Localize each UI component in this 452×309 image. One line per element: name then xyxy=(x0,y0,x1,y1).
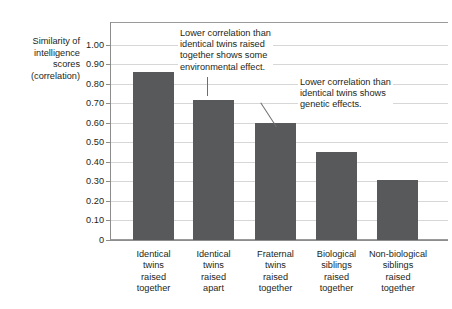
annotation-line: Lower correlation than xyxy=(180,28,271,39)
x-label-line: together xyxy=(122,283,185,294)
x-label-line: raised xyxy=(305,272,368,283)
x-label-line: raised xyxy=(361,272,435,283)
x-label-line: raised xyxy=(244,272,307,283)
ytick-label-0.70: 0.70 xyxy=(64,99,104,108)
x-label-line: siblings xyxy=(305,260,368,271)
annotation-line: Lower correlation than xyxy=(300,77,391,88)
x-axis-line xyxy=(110,240,448,241)
ytick-label-0.50: 0.50 xyxy=(64,138,104,147)
ytick-label-0.30: 0.30 xyxy=(64,177,104,186)
ytick-label-0.80: 0.80 xyxy=(64,80,104,89)
annotation-genetic-effect: Lower correlation than identical twins s… xyxy=(298,76,393,112)
ytick-label-0.60: 0.60 xyxy=(64,119,104,128)
gridline-0.90 xyxy=(110,64,448,65)
annotation-line: environmental effect. xyxy=(180,62,271,73)
bar-biological-siblings-raised-together xyxy=(316,152,357,240)
y-axis-tick-labels: 1.00 0.90 0.80 0.70 0.60 0.50 0.40 0.30 … xyxy=(60,0,104,309)
x-label-fraternal-twins-raised-together: Fraternal twins raised together xyxy=(244,249,307,295)
x-label-line: apart xyxy=(183,283,244,294)
annotation-line: identical twins raised xyxy=(180,39,271,50)
x-label-line: siblings xyxy=(361,260,435,271)
x-label-line: twins xyxy=(122,260,185,271)
annotation-line: genetic effects. xyxy=(300,99,391,110)
x-label-line: raised xyxy=(122,272,185,283)
ytick-label-1.00: 1.00 xyxy=(64,41,104,50)
x-label-line: Biological xyxy=(305,249,368,260)
y-axis-line xyxy=(110,22,111,241)
intelligence-similarity-bar-chart: Similarity of intelligence scores (corre… xyxy=(0,0,452,309)
x-label-line: Fraternal xyxy=(244,249,307,260)
x-label-identical-twins-raised-apart: Identical twins raised apart xyxy=(183,249,244,295)
ytick-label-0.40: 0.40 xyxy=(64,158,104,167)
gridline-1.00 xyxy=(110,45,448,46)
x-label-line: Identical xyxy=(122,249,185,260)
ytick-label-0: 0 xyxy=(64,236,104,245)
ytick-label-0.20: 0.20 xyxy=(64,197,104,206)
x-label-identical-twins-raised-together: Identical twins raised together xyxy=(122,249,185,295)
x-label-non-biological-siblings-raised-together: Non-biological siblings raised together xyxy=(361,249,435,295)
annotation-1-leader-line xyxy=(207,77,208,96)
bar-fraternal-twins-raised-together xyxy=(255,123,296,240)
x-label-line: raised xyxy=(183,272,244,283)
annotation-line: together shows some xyxy=(180,50,271,61)
ytick-label-0.10: 0.10 xyxy=(64,216,104,225)
x-label-line: Identical xyxy=(183,249,244,260)
x-label-biological-siblings-raised-together: Biological siblings raised together xyxy=(305,249,368,295)
ytick-label-0.90: 0.90 xyxy=(64,60,104,69)
annotation-line: identical twins shows xyxy=(300,88,391,99)
bar-identical-twins-raised-together xyxy=(133,72,174,240)
x-label-line: together xyxy=(244,283,307,294)
x-label-line: twins xyxy=(244,260,307,271)
annotation-environmental-effect: Lower correlation than identical twins r… xyxy=(178,27,273,74)
x-label-line: together xyxy=(305,283,368,294)
bar-non-biological-siblings-raised-together xyxy=(377,180,418,240)
bar-identical-twins-raised-apart xyxy=(193,100,234,240)
x-label-line: together xyxy=(361,283,435,294)
x-label-line: Non-biological xyxy=(361,249,435,260)
x-label-line: twins xyxy=(183,260,244,271)
